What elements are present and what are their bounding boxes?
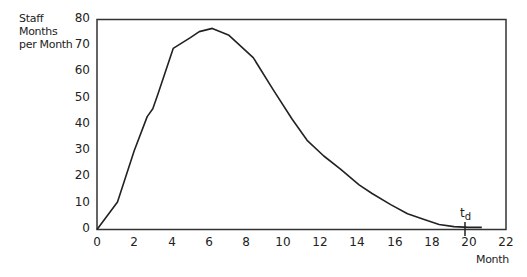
y-axis-title-line-2: Months (19, 25, 73, 38)
y-axis-title-line-3: per Month (19, 38, 73, 51)
x-tick: 2 (122, 235, 146, 249)
x-tick: 6 (197, 235, 221, 249)
y-tick: 30 (66, 142, 90, 156)
x-tick: 14 (345, 235, 369, 249)
x-tick: 22 (494, 235, 518, 249)
y-tick: 80 (66, 11, 90, 25)
plot-frame (97, 20, 506, 230)
x-tick: 18 (420, 235, 444, 249)
y-tick: 60 (66, 63, 90, 77)
x-tick: 10 (271, 235, 295, 249)
x-tick: 16 (383, 235, 407, 249)
staffing-curve (97, 28, 482, 229)
td-subscript: d (465, 211, 471, 222)
x-tick: 4 (160, 235, 184, 249)
y-tick: 40 (66, 116, 90, 130)
y-tick: 20 (66, 168, 90, 182)
x-tick: 0 (85, 235, 109, 249)
x-axis-title: Month (476, 253, 509, 266)
y-axis-title-line-1: Staff (19, 12, 73, 25)
y-tick: 70 (66, 37, 90, 51)
x-tick: 12 (308, 235, 332, 249)
y-axis-title: Staff Months per Month (19, 12, 73, 51)
y-tick: 10 (66, 195, 90, 209)
y-tick: 0 (66, 221, 90, 235)
x-tick: 20 (457, 235, 481, 249)
y-tick: 50 (66, 90, 90, 104)
x-tick: 8 (234, 235, 258, 249)
td-annotation: td (460, 206, 471, 222)
